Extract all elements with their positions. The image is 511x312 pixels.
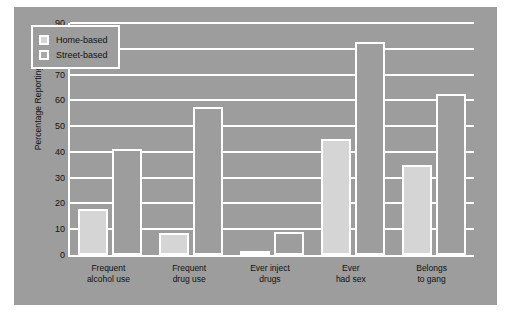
x-axis-label-line: alcohol use [68,274,149,285]
y-axis-tick-label: 70 [55,70,65,80]
chart-legend: Home-based Street-based [31,25,120,69]
x-axis-category-label: Frequentalcohol use [68,263,149,285]
x-axis-category-label: Everhad sex [310,263,391,285]
y-axis-tick-label: 40 [55,147,65,157]
bar-street-based [112,149,142,255]
x-axis-category-label: Frequentdrug use [149,263,230,285]
x-axis-label-line: drug use [149,274,230,285]
plot-area: 0102030405060708090 [68,23,474,257]
bar-street-based [274,232,304,255]
legend-item-home-based: Home-based [39,32,108,47]
bar-groups [70,23,474,255]
bar-home-based [78,209,108,255]
x-axis-label-line: Ever inject [230,263,311,274]
y-axis-tick-label: 0 [60,250,65,260]
y-axis-tick-label: 50 [55,121,65,131]
x-axis-label-line: had sex [310,274,391,285]
x-axis-label-line: drugs [230,274,311,285]
x-axis-category-label: Belongsto gang [391,263,472,285]
bar-group [393,23,474,255]
legend-swatch-icon-home-based [39,35,49,45]
bar-group [312,23,393,255]
bar-group [151,23,232,255]
bar-street-based [436,94,466,255]
chart-panel: Percentage Reporting 0102030405060708090… [14,7,497,305]
x-axis-label-line: Ever [310,263,391,274]
bar-home-based [240,251,270,255]
bar-street-based [355,42,385,255]
y-axis-tick-label: 30 [55,173,65,183]
legend-item-street-based: Street-based [39,47,108,62]
x-axis-label-line: Belongs [391,263,472,274]
bar-home-based [159,233,189,255]
x-axis-label-line: Frequent [68,263,149,274]
bar-group [232,23,313,255]
legend-label-street-based: Street-based [56,50,108,60]
bar-home-based [321,139,351,255]
y-axis-tick-label: 20 [55,198,65,208]
bar-street-based [193,107,223,255]
legend-label-home-based: Home-based [56,35,108,45]
x-axis-category-label: Ever injectdrugs [230,263,311,285]
x-axis-label-line: Frequent [149,263,230,274]
bar-home-based [402,165,432,255]
y-axis-tick-label: 60 [55,95,65,105]
legend-swatch-icon-street-based [39,50,49,60]
chart-page: Percentage Reporting 0102030405060708090… [0,0,511,312]
y-axis-tick-label: 10 [55,224,65,234]
x-axis-label-line: to gang [391,274,472,285]
